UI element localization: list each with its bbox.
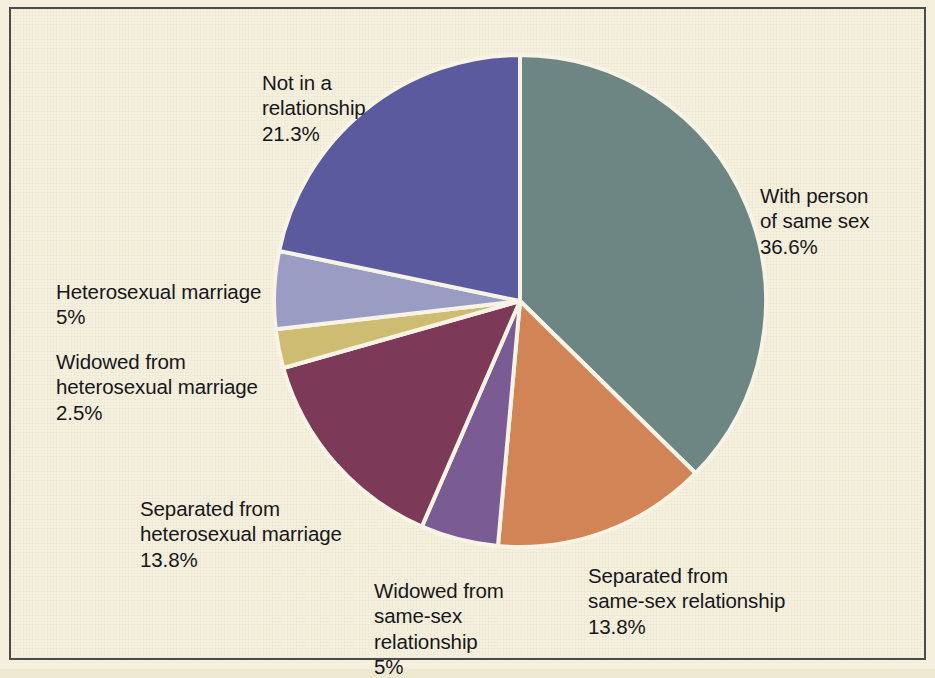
- slice-percent: 21.3%: [262, 121, 492, 147]
- slice-label-widowed-from-same-sex-relationship: Widowed from same-sex relationship 5%: [374, 552, 564, 678]
- slice-percent: 5%: [374, 654, 564, 678]
- slice-label-text: With person of same sex: [760, 184, 869, 233]
- slice-percent: 13.8%: [588, 614, 853, 640]
- slice-label-separated-from-same-sex-relationship: Separated from same-sex relationship 13.…: [588, 537, 853, 665]
- slice-label-text: Widowed from same-sex relationship: [374, 579, 504, 653]
- slice-label-not-in-a-relationship: Not in a relationship 21.3%: [262, 44, 492, 172]
- slice-percent: 13.8%: [140, 547, 390, 573]
- slice-label-text: Separated from heterosexual marriage: [140, 497, 342, 546]
- slice-percent: 36.6%: [760, 234, 935, 260]
- slice-label-text: Not in a relationship: [262, 71, 366, 120]
- slice-label-text: Widowed from heterosexual marriage: [56, 350, 258, 399]
- slice-label-text: Separated from same-sex relationship: [588, 564, 785, 613]
- slice-label-separated-from-heterosexual-marriage: Separated from heterosexual marriage 13.…: [140, 470, 390, 598]
- slice-label-widowed-from-heterosexual-marriage: Widowed from heterosexual marriage 2.5%: [56, 323, 311, 451]
- slice-percent: 2.5%: [56, 400, 311, 426]
- slice-label-with-person-of-same-sex: With person of same sex 36.6%: [760, 157, 935, 285]
- slice-label-text: Heterosexual marriage: [56, 280, 261, 303]
